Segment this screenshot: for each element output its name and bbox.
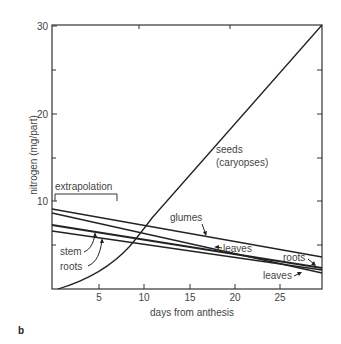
x-axis-title: days from anthesis: [150, 307, 234, 318]
line-roots: [52, 231, 322, 270]
y-axis-right-ticks: [317, 70, 322, 245]
y-axis-ticks: [52, 26, 57, 245]
series-lines: [52, 25, 322, 289]
extrapolation-bracket: [55, 194, 117, 201]
nitrogen-chart: 30 20 10 5 10 15 20 25 days from anthesi…: [0, 0, 341, 344]
roots-left-arrow: [88, 241, 102, 266]
leaves-right-label: leaves: [263, 270, 292, 281]
roots-right-label: roots: [283, 252, 305, 263]
caryopses-label: (caryopses): [216, 157, 268, 168]
y-axis-title: nitrogen (mg/part): [28, 115, 39, 194]
line-stem: [52, 225, 322, 268]
leaves-mid-label: leaves: [223, 243, 252, 254]
y-tick-30: 30: [37, 21, 49, 32]
glumes-arrowhead-icon: [203, 231, 207, 236]
panel-label: b: [18, 325, 24, 336]
leaves-mid-arrowhead-icon: [214, 245, 219, 249]
seeds-label: seeds: [216, 144, 243, 155]
x-tick-10: 10: [138, 292, 150, 303]
x-tick-25: 25: [274, 292, 286, 303]
y-tick-10: 10: [37, 196, 49, 207]
roots-left-label: roots: [60, 261, 82, 272]
x-tick-20: 20: [229, 292, 241, 303]
x-axis-ticks: [99, 284, 280, 289]
extrapolation-label: extrapolation: [55, 181, 112, 192]
glumes-label: glumes: [170, 212, 202, 223]
x-tick-15: 15: [184, 292, 196, 303]
x-tick-5: 5: [96, 292, 102, 303]
stem-label: stem: [60, 246, 82, 257]
